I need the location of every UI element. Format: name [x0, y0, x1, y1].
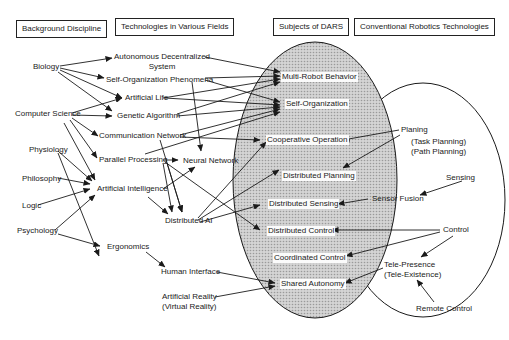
ads-line1: Autonomous Decentralized	[114, 52, 210, 62]
node-artificial-intelligence: Artificial Intelligence	[97, 184, 168, 194]
conv-path-planning: (Path Planning)	[411, 147, 466, 157]
header-conventional-robotics: Conventional Robotics Technologies	[354, 18, 495, 36]
node-artificial-reality: Artificial Reality (Virtual Reality)	[162, 292, 217, 312]
header-subjects-of-dars: Subjects of DARS	[273, 18, 349, 36]
diagram-canvas	[0, 0, 509, 340]
node-autonomous-decentralized-system: Autonomous Decentralized System	[114, 52, 210, 72]
node-distributed-ai: Distributed AI	[165, 216, 213, 226]
node-physiology: Physiology	[29, 145, 68, 155]
conv-remote-control: Remote Control	[416, 304, 472, 314]
ads-line2: System	[114, 62, 210, 72]
node-logic: Logic	[22, 201, 41, 211]
node-ergonomics: Ergonomics	[107, 242, 149, 252]
node-neural-network: Neural Network	[183, 156, 238, 166]
node-computer-science: Computer Science	[15, 109, 81, 119]
node-psychology: Psychology	[17, 226, 58, 236]
conv-tele-presence: Tele-Presence (Tele-Existence)	[384, 260, 441, 280]
header-technologies: Technologies in Various Fields	[115, 18, 234, 36]
node-human-interface: Human Interface	[161, 267, 220, 277]
subject-distributed-planning: Distributed Planning	[282, 171, 356, 181]
conv-sensing: Sensing	[446, 173, 475, 183]
node-self-organization-phenomena: Self-Organization Phenomena	[106, 75, 213, 85]
subject-shared-autonomy: Shared Autonomy	[280, 279, 346, 289]
subject-distributed-sensing: Distributed Sensing	[268, 199, 339, 209]
artificial-reality-line1: Artificial Reality	[162, 292, 217, 302]
node-communication-network: Communication Network	[99, 131, 186, 141]
tele-presence-label: Tele-Presence	[384, 260, 441, 270]
subject-cooperative-operation: Cooperative Operation	[266, 135, 349, 145]
subject-coordinated-control: Coordinated Control	[273, 253, 347, 263]
header-background-discipline: Background Discipline	[16, 20, 107, 38]
node-genetic-algorithm: Genetic Algorithm	[117, 111, 180, 121]
subject-self-organization: Self-Organization	[285, 99, 349, 109]
tele-existence-label: (Tele-Existence)	[384, 270, 441, 280]
subject-distributed-control: Distributed Control	[267, 226, 335, 236]
conv-control: Control	[443, 225, 469, 235]
subject-multi-robot-behavior: Multi-Robot Behavior	[281, 72, 358, 82]
conv-sensor-fusion: Sensor Fusion	[372, 194, 424, 204]
conv-task-planning: (Task Planning)	[411, 137, 466, 147]
node-parallel-processing: Parallel Processing	[99, 155, 167, 165]
artificial-reality-line2: (Virtual Reality)	[162, 302, 217, 312]
planing-label: Planing	[401, 125, 428, 135]
node-artificial-life: Artificial Life	[125, 93, 168, 103]
node-biology: Biology	[33, 62, 59, 72]
node-philosophy: Philosophy	[22, 174, 61, 184]
conv-planing: Planing	[401, 125, 428, 135]
